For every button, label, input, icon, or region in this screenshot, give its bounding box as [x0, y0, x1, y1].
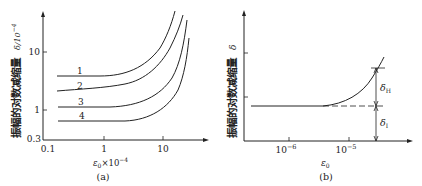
caption-b: (b)	[319, 171, 333, 182]
delta-i-label: δI	[380, 117, 389, 129]
curve-label-2: 2	[77, 81, 83, 91]
caption-a: (a)	[96, 171, 109, 182]
y-axis-label-a: 振幅的对数减缩量 δ/10−4	[10, 23, 22, 138]
y-axis-label-b: 振幅的对数减缩量 δ	[226, 45, 238, 138]
x-tick-label-10: 10	[157, 144, 169, 154]
figure: 10 1 0.3 0.1 1 10 1 2 3 4 振幅的对数减缩量 δ/10−…	[0, 0, 422, 186]
y-tick-label-0.3: 0.3	[27, 134, 42, 144]
x-axis-label-b: ε0	[321, 158, 330, 169]
x-tick-label-1: 1	[101, 144, 107, 154]
curve-label-3: 3	[78, 97, 84, 107]
svg-text:振幅的对数减缩量: 振幅的对数减缩量	[10, 57, 22, 138]
curve-2	[57, 15, 183, 91]
panel-b: 10−6 10−5 δH δI 振幅的对数减缩量 δ ε0 (b)	[226, 13, 410, 182]
x-tick-label-0.1: 0.1	[41, 144, 55, 154]
svg-text:δ/10−4: δ/10−4	[10, 23, 22, 50]
curve-4	[58, 38, 189, 121]
curve-label-1: 1	[77, 66, 83, 76]
y-tick-label-10: 10	[29, 47, 41, 57]
curve-label-4: 4	[79, 111, 85, 121]
delta-h-label: δH	[380, 82, 391, 94]
x-tick-label-1e-6: 10−6	[275, 143, 296, 155]
x-axis-label-a: ε0×10−4	[93, 156, 128, 169]
svg-text:振幅的对数减缩量: 振幅的对数减缩量	[226, 57, 238, 138]
panel-a: 10 1 0.3 0.1 1 10 1 2 3 4 振幅的对数减缩量 δ/10−…	[10, 11, 206, 182]
y-tick-label-1: 1	[34, 105, 40, 115]
x-tick-label-1e-5: 10−5	[335, 143, 356, 155]
svg-text:δ: δ	[228, 45, 238, 50]
damping-curve	[251, 57, 384, 106]
